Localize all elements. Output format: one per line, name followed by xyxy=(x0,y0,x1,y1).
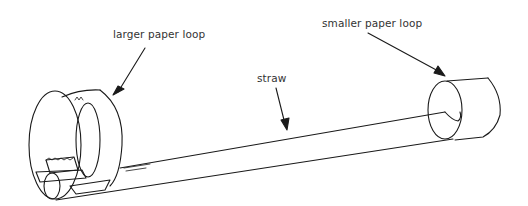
straw-label: straw xyxy=(257,72,286,84)
larger-paper-loop-shape xyxy=(29,90,150,199)
larger-paper-loop-label: larger paper loop xyxy=(113,28,205,40)
diagram-drawing xyxy=(0,0,528,206)
smaller-paper-loop-shape xyxy=(428,78,500,140)
paper-airplane-diagram: larger paper loop straw smaller paper lo… xyxy=(0,0,528,206)
smaller-paper-loop-label: smaller paper loop xyxy=(322,17,422,29)
straw-shape xyxy=(44,112,453,200)
